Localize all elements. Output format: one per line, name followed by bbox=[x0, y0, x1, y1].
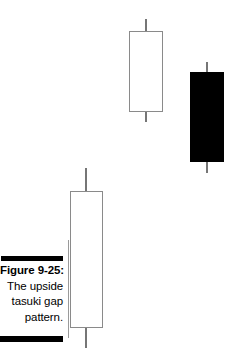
figure-container: Figure 9-25: The upside tasuki gap patte… bbox=[0, 0, 242, 351]
caption-rule-top bbox=[1, 256, 63, 261]
caption-divider-line bbox=[68, 240, 69, 338]
figure-caption: Figure 9-25: The upside tasuki gap patte… bbox=[0, 263, 63, 325]
caption-line-4: pattern. bbox=[0, 310, 63, 326]
first-white-candle-body bbox=[70, 191, 103, 328]
second-white-candle-body bbox=[129, 31, 163, 112]
caption-line-3: tasuki gap bbox=[0, 294, 63, 310]
caption-rule-bottom bbox=[0, 336, 63, 342]
third-black-candle-body bbox=[190, 72, 224, 162]
caption-line-1: Figure 9-25: bbox=[0, 263, 63, 279]
caption-line-2: The upside bbox=[0, 279, 63, 295]
